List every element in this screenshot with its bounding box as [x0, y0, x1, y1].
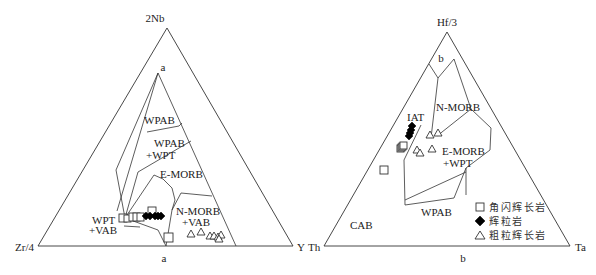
legend-triangle-icon — [475, 231, 485, 239]
ternary-diagrams: 2Nb Zr/4 Y a a WPAB WPAB +WPT E-MORB N-M… — [0, 0, 596, 275]
field-label-emorb-wpt-1: E-MORB — [442, 145, 485, 157]
legend-label-pyroxenite: 辉粒岩 — [489, 215, 524, 227]
legend: 角闪辉长岩 辉粒岩 粗粒辉长岩 — [475, 201, 547, 241]
data-points-diamonds-a — [142, 212, 165, 220]
field-label-nmorb-vab-2: +VAB — [182, 216, 210, 228]
field-label-iat: IAT — [407, 111, 424, 123]
field-label-cab: CAB — [350, 219, 373, 231]
legend-label-coarse-gabbro: 粗粒辉长岩 — [489, 229, 547, 241]
field-label-wpab-wpt-1: WPAB — [154, 137, 185, 149]
field-label-wpt-vab-2: +VAB — [89, 224, 117, 236]
right-label-b: Ta — [575, 241, 586, 253]
apex-label-a: 2Nb — [146, 12, 165, 24]
legend-label-hornblende-gabbro: 角闪辉长岩 — [489, 201, 547, 213]
field-label-wpab-wpt-2: +WPT — [146, 149, 176, 161]
left-label-b: Th — [308, 241, 321, 253]
inner-apex-label-a: a — [161, 61, 166, 73]
data-points-squares-b — [380, 142, 407, 174]
panel-label-b: b — [460, 252, 466, 264]
field-boundary-nmorb-emorb — [437, 109, 471, 136]
data-points-triangles-a — [187, 228, 225, 242]
right-label-a: Y — [297, 241, 305, 253]
field-boundary-nmorb-b — [404, 59, 491, 205]
field-label-wpab: WPAB — [144, 114, 175, 126]
field-label-emorb-wpt-2: +WPT — [443, 157, 473, 169]
field-label-emorb: E-MORB — [160, 168, 203, 180]
field-boundary-emorb-wpab — [405, 172, 466, 200]
apex-label-b: Hf/3 — [437, 16, 458, 28]
legend-square-icon — [476, 203, 484, 211]
data-points-diamonds-b — [405, 122, 416, 140]
left-label-a: Zr/4 — [15, 241, 34, 253]
field-boundary-wpt-vab-tick — [124, 226, 140, 227]
field-label-nmorb-b: N-MORB — [436, 101, 480, 113]
legend-diamond-icon — [475, 216, 485, 226]
diagram-a: 2Nb Zr/4 Y a a WPAB WPAB +WPT E-MORB N-M… — [15, 12, 305, 264]
inner-apex-label-b: b — [438, 52, 444, 64]
panel-label-a: a — [162, 252, 167, 264]
diagram-b: Hf/3 Th Ta b b IAT N-MORB E-MORB +WPT WP… — [308, 16, 586, 264]
field-label-wpab-b: WPAB — [421, 206, 452, 218]
